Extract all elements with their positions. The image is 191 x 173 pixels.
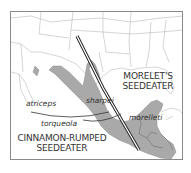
species-name-line: CINNAMON-RUMPED bbox=[10, 134, 117, 143]
range-map: MORELET'S SEEDEATER CINNAMON-RUMPED SEED… bbox=[10, 11, 183, 160]
label-cinnamon-rumped-seedeater: CINNAMON-RUMPED SEEDEATER bbox=[10, 134, 117, 153]
label-torqueola: torqueola bbox=[41, 120, 77, 128]
species-name-line: SEEDEATER bbox=[115, 82, 181, 91]
label-sharpei: sharpei bbox=[86, 97, 114, 105]
species-name-line: SEEDEATER bbox=[10, 144, 117, 153]
label-morelleti: morelleti bbox=[129, 114, 162, 122]
label-morelets-seedeater: MORELET'S SEEDEATER bbox=[115, 72, 181, 91]
species-name-line: MORELET'S bbox=[115, 72, 181, 81]
label-atriceps: atriceps bbox=[26, 100, 56, 108]
